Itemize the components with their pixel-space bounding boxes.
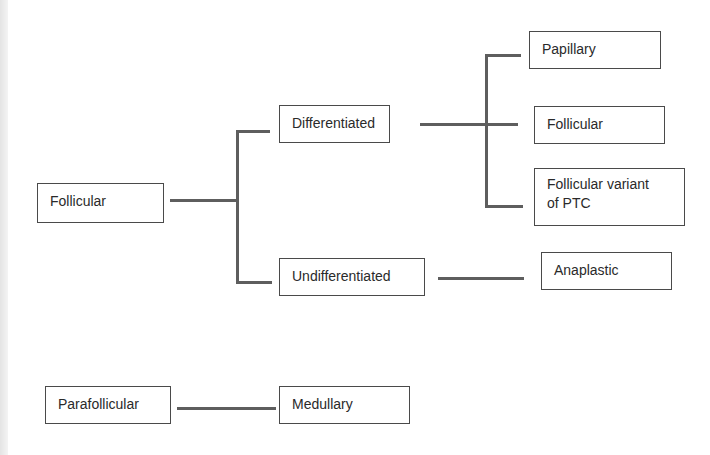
connector-to-anaplastic [438,277,524,280]
node-label: Anaplastic [554,262,619,278]
node-anaplastic: Anaplastic [541,252,672,290]
connector-to-follicular-variant [487,205,523,208]
node-label-line1: Follicular variant [547,175,672,194]
node-label: Follicular [50,193,106,209]
node-label: Medullary [292,396,353,412]
connector-to-medullary [177,407,276,410]
page-edge [0,0,8,455]
node-undifferentiated: Undifferentiated [279,258,425,296]
node-label: Papillary [542,41,596,57]
connector-follicular [170,199,238,202]
connector-differentiated-split [485,54,488,208]
connector-to-papillary [485,54,521,57]
node-medullary: Medullary [279,386,410,424]
connector-to-differentiated [236,130,270,133]
node-follicular-variant-ptc: Follicular variant of PTC [534,168,685,226]
node-label-line2: of PTC [547,194,672,213]
node-label: Follicular [547,116,603,132]
node-follicular-carcinoma: Follicular [534,106,665,144]
node-parafollicular: Parafollicular [45,386,171,424]
node-papillary: Papillary [529,31,661,69]
connector-follicular-split [236,130,239,284]
connector-differentiated [420,123,518,126]
node-label: Parafollicular [58,396,139,412]
node-differentiated: Differentiated [279,105,390,143]
connector-to-undifferentiated [238,281,272,284]
node-follicular: Follicular [37,183,164,223]
node-label: Undifferentiated [292,268,391,284]
node-label: Differentiated [292,115,375,131]
